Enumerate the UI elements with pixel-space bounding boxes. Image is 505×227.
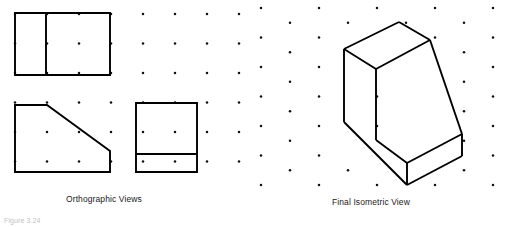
grid-dot xyxy=(46,101,49,104)
grid-dot xyxy=(318,184,321,187)
grid-dot xyxy=(14,101,17,104)
grid-dot xyxy=(174,131,177,134)
grid-dot xyxy=(206,101,209,104)
grid-dot xyxy=(238,160,241,163)
orthographic-views-label: Orthographic Views xyxy=(66,194,142,204)
grid-dot xyxy=(463,81,466,84)
grid-dot xyxy=(289,140,292,143)
isometric-view-label: Final Isometric View xyxy=(332,197,410,207)
grid-dot xyxy=(289,22,292,25)
orthographic-dot-grid xyxy=(14,13,241,163)
grid-dot xyxy=(110,101,113,104)
grid-dot xyxy=(174,72,177,75)
grid-dot xyxy=(142,131,145,134)
grid-dot xyxy=(174,42,177,45)
grid-dot xyxy=(318,36,321,39)
grid-dot xyxy=(206,42,209,45)
grid-dot xyxy=(289,51,292,54)
grid-dot xyxy=(434,7,437,10)
grid-dot xyxy=(492,184,495,187)
grid-dot xyxy=(347,22,350,25)
grid-dot xyxy=(260,36,263,39)
grid-dot xyxy=(289,169,292,172)
grid-dot xyxy=(142,13,145,16)
grid-dot xyxy=(78,131,81,134)
grid-dot xyxy=(206,13,209,16)
grid-dot xyxy=(463,110,466,113)
grid-dot xyxy=(318,7,321,10)
grid-dot xyxy=(238,131,241,134)
grid-dot xyxy=(260,154,263,157)
grid-dot xyxy=(318,154,321,157)
grid-dot xyxy=(174,160,177,163)
grid-dot xyxy=(318,66,321,69)
grid-dot xyxy=(142,160,145,163)
side-view-outline xyxy=(136,103,197,172)
grid-dot xyxy=(174,13,177,16)
grid-dot xyxy=(376,7,379,10)
grid-dot xyxy=(238,13,241,16)
grid-dot xyxy=(260,125,263,128)
technical-drawing-canvas xyxy=(0,0,505,227)
grid-dot xyxy=(434,184,437,187)
grid-dot xyxy=(260,95,263,98)
grid-dot xyxy=(142,42,145,45)
grid-dot xyxy=(206,131,209,134)
grid-dot xyxy=(318,125,321,128)
grid-dot xyxy=(238,101,241,104)
grid-dot xyxy=(463,22,466,25)
grid-dot xyxy=(347,169,350,172)
grid-dot xyxy=(318,95,321,98)
grid-dot xyxy=(463,140,466,143)
grid-dot xyxy=(206,72,209,75)
grid-dot xyxy=(78,160,81,163)
grid-dot xyxy=(110,131,113,134)
grid-dot xyxy=(260,184,263,187)
grid-dot xyxy=(463,51,466,54)
front-view-outline xyxy=(15,105,110,172)
grid-dot xyxy=(492,154,495,157)
grid-dot xyxy=(238,72,241,75)
figure-caption: Figure 3.24 xyxy=(4,217,41,224)
grid-dot xyxy=(46,160,49,163)
top-view-outline xyxy=(15,13,110,75)
grid-dot xyxy=(492,95,495,98)
grid-dot xyxy=(289,110,292,113)
grid-dot xyxy=(492,7,495,10)
grid-dot xyxy=(260,66,263,69)
grid-dot xyxy=(463,169,466,172)
grid-dot xyxy=(260,7,263,10)
grid-dot xyxy=(78,42,81,45)
grid-dot xyxy=(376,184,379,187)
grid-dot xyxy=(78,72,81,75)
grid-dot xyxy=(492,36,495,39)
figure-container: Orthographic Views Final Isometric View … xyxy=(0,0,505,227)
grid-dot xyxy=(142,72,145,75)
grid-dot xyxy=(492,125,495,128)
grid-dot xyxy=(78,101,81,104)
grid-dot xyxy=(405,22,408,25)
grid-dot xyxy=(289,81,292,84)
isometric-solid-group xyxy=(344,22,462,185)
grid-dot xyxy=(238,42,241,45)
grid-dot xyxy=(206,160,209,163)
grid-dot xyxy=(434,36,437,39)
grid-dot xyxy=(46,131,49,134)
orthographic-views-group xyxy=(15,13,197,172)
grid-dot xyxy=(492,66,495,69)
